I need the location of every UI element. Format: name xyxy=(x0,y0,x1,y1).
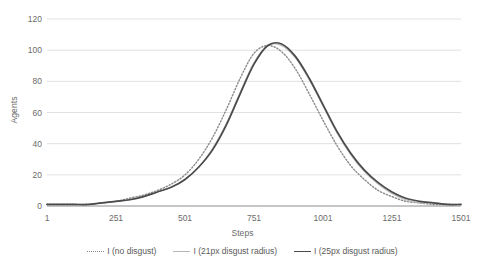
y-tick-label: 40 xyxy=(4,139,42,149)
y-tick-label: 20 xyxy=(4,170,42,180)
legend-item-label: I (no disgust) xyxy=(107,246,156,256)
x-tick-label: 1001 xyxy=(314,213,333,223)
y-tick-label: 0 xyxy=(4,201,42,211)
legend-item[interactable]: I (25px disgust radius) xyxy=(294,246,398,256)
series-line xyxy=(47,45,461,204)
chart-legend: I (no disgust)I (21px disgust radius)I (… xyxy=(0,246,485,256)
thin-line-icon xyxy=(173,247,190,255)
legend-item[interactable]: I (no disgust) xyxy=(87,246,156,256)
y-tick-label: 80 xyxy=(4,76,42,86)
x-tick-label: 1251 xyxy=(383,213,402,223)
legend-item-label: I (25px disgust radius) xyxy=(314,246,398,256)
y-tick-label: 120 xyxy=(4,14,42,24)
series-line xyxy=(47,44,461,205)
x-tick-label: 1501 xyxy=(452,213,471,223)
y-tick-label: 100 xyxy=(4,45,42,55)
x-tick-label: 251 xyxy=(109,213,123,223)
dotted-line-icon xyxy=(87,247,104,255)
x-tick-label: 751 xyxy=(247,213,261,223)
line-chart: Agents 020406080100120 12515017511001125… xyxy=(0,0,485,274)
x-tick-label: 1 xyxy=(45,213,50,223)
series-line xyxy=(47,43,461,205)
legend-item-label: I (21px disgust radius) xyxy=(193,246,277,256)
x-axis-title: Steps xyxy=(0,228,485,238)
x-tick-label: 501 xyxy=(178,213,192,223)
y-tick-label: 60 xyxy=(4,108,42,118)
legend-item[interactable]: I (21px disgust radius) xyxy=(173,246,277,256)
thick-line-icon xyxy=(294,247,311,255)
